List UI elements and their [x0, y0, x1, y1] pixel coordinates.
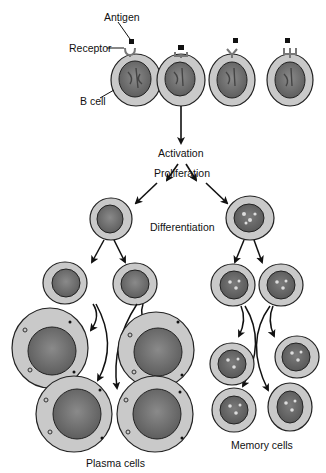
memory-cell-4 [268, 383, 312, 431]
diagram-canvas [0, 0, 326, 473]
proliferating-cell-left [90, 198, 132, 240]
memory-cell-1 [210, 343, 254, 385]
dividing-cell-left-a [43, 262, 87, 304]
b-cell-1 [111, 54, 161, 106]
b-cell-4 [267, 38, 313, 106]
plasma-cell-4 [117, 376, 193, 452]
receptor-label: Receptor [69, 43, 112, 54]
memory-cell-3 [212, 388, 256, 432]
antigen-leader [118, 22, 130, 39]
b-cell-2 [157, 45, 205, 106]
memory-cells-label: Memory cells [231, 440, 293, 451]
plasma-cell-3 [36, 376, 112, 452]
dividing-cell-right-a [211, 264, 255, 306]
plasma-cells-label: Plasma cells [86, 458, 145, 469]
proliferation-label: Proliferation [154, 168, 210, 179]
proliferating-cell-right [226, 196, 274, 240]
dividing-cell-left-b [113, 263, 157, 305]
antigen-icon [129, 39, 134, 44]
b-cell-3 [209, 38, 255, 106]
antigen-label: Antigen [104, 12, 140, 23]
b-cell-label: B cell [80, 96, 106, 107]
dividing-cell-right-b [259, 264, 303, 306]
activation-label: Activation [158, 148, 204, 159]
memory-cell-2 [275, 336, 319, 378]
differentiation-label: Differentiation [150, 222, 215, 233]
